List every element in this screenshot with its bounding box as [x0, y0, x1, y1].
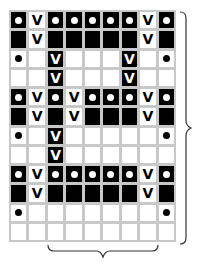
grid-cell — [11, 89, 26, 105]
dot-icon — [89, 94, 96, 101]
grid-cell — [122, 89, 137, 105]
v-symbol-icon: V — [50, 148, 61, 162]
grid-cell — [11, 166, 26, 182]
grid-cell — [103, 89, 118, 105]
dot-icon — [89, 171, 96, 178]
grid-cell — [85, 51, 100, 67]
stitch-chart-grid: VVVVVVVVVVVVVVVVVVVV — [9, 10, 176, 242]
grid-cell — [48, 224, 63, 240]
grid-cell: V — [66, 108, 81, 124]
grid-cell — [11, 51, 26, 67]
dot-icon — [107, 171, 114, 178]
grid-cell: V — [140, 89, 155, 105]
grid-cell — [122, 12, 137, 28]
dot-icon — [15, 17, 22, 24]
grid-cell — [122, 185, 137, 201]
grid-cell: V — [140, 166, 155, 182]
grid-cell — [11, 224, 26, 240]
dot-icon — [89, 17, 96, 24]
grid-cell — [159, 51, 174, 67]
grid-cell — [103, 224, 118, 240]
dot-icon — [15, 55, 22, 62]
grid-cell: V — [29, 31, 44, 47]
v-symbol-icon: V — [50, 52, 61, 66]
grid-cell — [11, 108, 26, 124]
v-symbol-icon: V — [32, 90, 43, 104]
grid-cell — [140, 147, 155, 163]
dot-icon — [15, 132, 22, 139]
dot-icon — [163, 17, 170, 24]
dot-icon — [163, 55, 170, 62]
dot-icon — [163, 94, 170, 101]
grid-cell — [66, 147, 81, 163]
v-symbol-icon: V — [50, 71, 61, 85]
grid-cell — [140, 205, 155, 221]
grid-cell — [29, 205, 44, 221]
dot-icon — [52, 171, 59, 178]
dot-icon — [107, 94, 114, 101]
dot-icon — [15, 209, 22, 216]
v-symbol-icon: V — [32, 167, 43, 181]
grid-cell — [85, 12, 100, 28]
grid-cell — [103, 12, 118, 28]
grid-cell — [11, 147, 26, 163]
bottom-brace — [46, 244, 160, 260]
v-symbol-icon: V — [50, 129, 61, 143]
grid-cell: V — [122, 51, 137, 67]
grid-cell: V — [48, 70, 63, 86]
grid-cell — [48, 12, 63, 28]
grid-cell — [85, 31, 100, 47]
grid-cell — [85, 224, 100, 240]
v-symbol-icon: V — [142, 90, 153, 104]
grid-cell — [85, 185, 100, 201]
grid-cell — [29, 128, 44, 144]
grid-cell — [159, 224, 174, 240]
v-symbol-icon: V — [69, 90, 80, 104]
grid-cell — [66, 70, 81, 86]
grid-cell — [140, 224, 155, 240]
dot-icon — [52, 17, 59, 24]
grid-cell — [48, 205, 63, 221]
grid-cell — [159, 70, 174, 86]
v-symbol-icon: V — [142, 32, 153, 46]
dot-icon — [15, 171, 22, 178]
grid-cell — [66, 12, 81, 28]
grid-cell: V — [29, 108, 44, 124]
dot-icon — [15, 94, 22, 101]
grid-cell — [29, 51, 44, 67]
grid-cell — [140, 51, 155, 67]
grid-cell — [122, 108, 137, 124]
grid-cell — [66, 166, 81, 182]
grid-cell — [11, 12, 26, 28]
grid-cell — [103, 205, 118, 221]
dot-icon — [71, 171, 78, 178]
grid-cell: V — [140, 185, 155, 201]
grid-cell: V — [48, 51, 63, 67]
v-symbol-icon: V — [32, 32, 43, 46]
grid-cell — [85, 89, 100, 105]
v-symbol-icon: V — [32, 13, 43, 27]
grid-cell: V — [29, 12, 44, 28]
grid-cell: V — [140, 108, 155, 124]
grid-cell — [159, 12, 174, 28]
grid-cell — [85, 70, 100, 86]
grid-cell — [66, 31, 81, 47]
v-symbol-icon: V — [124, 52, 135, 66]
grid-cell — [85, 205, 100, 221]
grid-cell — [103, 147, 118, 163]
grid-cell — [66, 224, 81, 240]
grid-cell: V — [140, 12, 155, 28]
grid-cell — [140, 70, 155, 86]
grid-cell — [103, 166, 118, 182]
dot-icon — [163, 132, 170, 139]
dot-icon — [163, 209, 170, 216]
grid-cell — [85, 108, 100, 124]
grid-cell — [103, 31, 118, 47]
grid-cell: V — [140, 31, 155, 47]
grid-cell — [66, 205, 81, 221]
dot-icon — [52, 94, 59, 101]
grid-cell — [11, 185, 26, 201]
grid-cell — [85, 147, 100, 163]
grid-cell — [48, 89, 63, 105]
v-symbol-icon: V — [142, 167, 153, 181]
